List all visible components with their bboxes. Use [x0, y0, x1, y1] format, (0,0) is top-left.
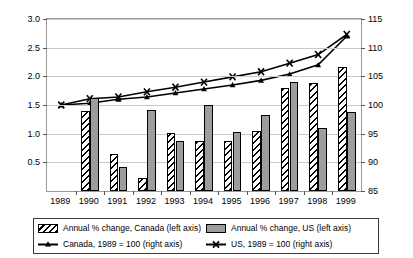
x-axis-tick	[161, 191, 162, 195]
x-axis-tick	[133, 191, 134, 195]
bar	[119, 167, 128, 191]
y-axis-left-title: Annual % rate of change	[0, 0, 13, 28]
line-series	[61, 36, 346, 105]
bar	[309, 83, 318, 191]
bar	[81, 111, 90, 191]
y-axis-left-tick-label: 1.5	[27, 100, 40, 110]
y-axis-left-tick	[43, 48, 47, 49]
x-axis-tick-label: 1989	[50, 196, 70, 206]
gridline	[47, 19, 361, 20]
bar	[147, 110, 156, 191]
y-axis-right-tick-label: 100	[368, 100, 383, 110]
gridline	[47, 48, 361, 49]
bar	[318, 128, 327, 191]
y-axis-left-tick-label: 2.5	[27, 43, 40, 53]
legend-item-us-bar: Annual % change, US (left axis)	[206, 224, 374, 233]
plot-area: 3.02.52.01.51.00.5115110105100959085	[46, 18, 362, 192]
line-cross-swatch-icon	[206, 240, 226, 249]
bar	[281, 88, 290, 191]
bar	[176, 141, 185, 191]
bar	[167, 133, 176, 191]
legend-label: Annual % change, US (left axis)	[231, 224, 351, 233]
bar	[195, 141, 204, 191]
bar	[347, 112, 356, 191]
y-axis-right-tick	[361, 19, 365, 20]
x-axis-tick-label: 1990	[79, 196, 99, 206]
x-axis-tick	[247, 191, 248, 195]
x-axis-tick	[332, 191, 333, 195]
y-axis-right-tick	[361, 105, 365, 106]
x-axis-tick-label: 1992	[136, 196, 156, 206]
bar	[261, 115, 270, 191]
x-axis-tick-label: 1994	[193, 196, 213, 206]
x-axis-tick	[190, 191, 191, 195]
bar	[290, 82, 299, 191]
x-axis-tick-label: 1996	[250, 196, 270, 206]
bar	[204, 105, 213, 191]
legend-label: Canada, 1989 = 100 (right axis)	[63, 240, 182, 249]
y-axis-right-tick-label: 85	[368, 186, 378, 196]
y-axis-right-tick-label: 110	[368, 43, 382, 53]
y-axis-right-tick	[361, 134, 365, 135]
legend-item-us-line: US, 1989 = 100 (right axis)	[206, 240, 374, 249]
y-axis-left-tick-label: 1.0	[27, 129, 40, 139]
x-axis-tick	[275, 191, 276, 195]
x-axis-tick-label: 1998	[307, 196, 327, 206]
hatched-bar-swatch-icon	[38, 224, 58, 233]
chart-legend: Annual % change, Canada (left axis) Annu…	[33, 218, 379, 254]
bar	[224, 141, 233, 191]
y-axis-right-tick-label: 90	[368, 157, 378, 167]
bar	[110, 154, 119, 191]
legend-label: US, 1989 = 100 (right axis)	[231, 240, 332, 249]
x-axis-tick-label: 1993	[164, 196, 184, 206]
gray-bar-swatch-icon	[206, 224, 226, 233]
y-axis-right-tick	[361, 191, 365, 192]
gridline	[47, 76, 361, 77]
legend-label: Annual % change, Canada (left axis)	[63, 224, 201, 233]
x-axis-tick-label: 1991	[107, 196, 127, 206]
bar	[233, 132, 242, 191]
y-axis-right-tick-label: 115	[368, 14, 382, 24]
y-axis-right-tick	[361, 162, 365, 163]
x-axis-tick-label: 1995	[222, 196, 242, 206]
x-axis-tick-label: 1999	[336, 196, 356, 206]
y-axis-right-tick-label: 95	[368, 129, 378, 139]
y-axis-left-tick-label: 2.0	[27, 71, 40, 81]
y-axis-right-tick	[361, 48, 365, 49]
bar	[338, 67, 347, 191]
x-axis-tick-label: 1997	[279, 196, 299, 206]
y-axis-left-tick	[43, 162, 47, 163]
bar	[138, 178, 147, 191]
legend-item-canada-line: Canada, 1989 = 100 (right axis)	[38, 240, 206, 249]
y-axis-right-tick	[361, 76, 365, 77]
y-axis-left-tick	[43, 105, 47, 106]
y-axis-left-tick	[43, 76, 47, 77]
x-axis-tick	[76, 191, 77, 195]
x-axis-tick	[104, 191, 105, 195]
bar	[252, 131, 261, 191]
y-axis-left-tick	[43, 19, 47, 20]
y-axis-left-tick-label: 3.0	[27, 14, 40, 24]
x-axis-tick	[218, 191, 219, 195]
line-triangle-swatch-icon	[38, 240, 58, 249]
legend-item-canada-bar: Annual % change, Canada (left axis)	[38, 224, 206, 233]
bar	[90, 98, 99, 191]
y-axis-right-tick-label: 105	[368, 71, 383, 81]
chart-container: Annual % rate of change 3.02.52.01.51.00…	[0, 0, 413, 258]
y-axis-left-tick	[43, 134, 47, 135]
x-axis-tick	[304, 191, 305, 195]
y-axis-left-tick-label: 0.5	[27, 157, 40, 167]
